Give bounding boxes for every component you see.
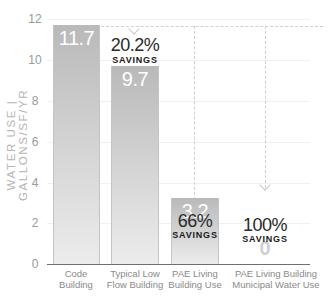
x-tick-label: Code Building bbox=[46, 268, 106, 290]
x-tick-line: Flow Building bbox=[104, 279, 166, 290]
arrow-down-icon bbox=[259, 179, 270, 190]
y-tick: 0 bbox=[26, 257, 44, 271]
savings-label: SAVINGS bbox=[165, 230, 225, 240]
y-tick: 6 bbox=[26, 135, 44, 149]
savings-percent: 66% bbox=[165, 212, 225, 230]
bar-value: 9.7 bbox=[112, 68, 158, 91]
dashed-connector bbox=[265, 26, 266, 188]
x-tick-label: PAE Living Building Use bbox=[163, 268, 227, 290]
y-axis-label: WATER USE | GALLONS/SF/YR bbox=[5, 45, 19, 245]
x-tick-line: Building bbox=[46, 279, 106, 290]
x-axis-line bbox=[47, 264, 310, 265]
x-tick-line: Municipal Water Use bbox=[226, 279, 326, 290]
x-tick-label: PAE Living Building Municipal Water Use bbox=[226, 268, 326, 290]
savings-percent: 100% bbox=[233, 216, 297, 234]
savings-label: SAVINGS bbox=[233, 234, 297, 244]
savings-percent: 20.2% bbox=[105, 36, 165, 54]
y-tick: 2 bbox=[26, 216, 44, 230]
bar-typical-low-flow: 9.7 bbox=[111, 66, 159, 264]
y-tick: 10 bbox=[26, 53, 44, 67]
bar-value: 11.7 bbox=[54, 27, 99, 50]
gridline bbox=[47, 19, 310, 20]
y-tick: 8 bbox=[26, 94, 44, 108]
y-tick: 12 bbox=[26, 12, 44, 26]
x-tick-line: PAE Living Building bbox=[226, 268, 326, 279]
x-tick-label: Typical Low Flow Building bbox=[104, 268, 166, 290]
bar-code-building: 11.7 bbox=[53, 25, 100, 264]
x-tick-line: Code bbox=[46, 268, 106, 279]
savings-label: SAVINGS bbox=[105, 55, 165, 65]
y-tick: 4 bbox=[26, 176, 44, 190]
dashed-connector bbox=[194, 26, 195, 210]
x-tick-line: PAE Living bbox=[163, 268, 227, 279]
x-tick-line: Building Use bbox=[163, 279, 227, 290]
x-tick-line: Typical Low bbox=[104, 268, 166, 279]
